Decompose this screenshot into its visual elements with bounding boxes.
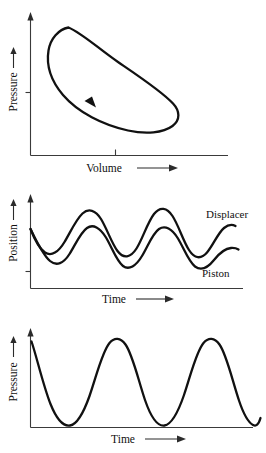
pv-ylabel-group: Pressure xyxy=(7,73,19,112)
pv-xlabel: Volume xyxy=(86,162,122,174)
pos-ylabel-arrow-group xyxy=(10,199,16,220)
stirling-cycle-figure: Pressure Volume Displacer Piston Positio… xyxy=(0,0,266,453)
pt-ylabel-group: Pressure xyxy=(7,363,19,402)
pressure-curve xyxy=(32,339,261,426)
pos-xlabel: Time xyxy=(102,293,126,305)
pv-y-axis-arrowhead xyxy=(27,12,33,21)
series-label-piston: Piston xyxy=(202,267,230,279)
pt-ylabel: Pressure xyxy=(7,363,19,402)
panel-pv-diagram: Pressure Volume xyxy=(7,12,228,174)
displacer-curve xyxy=(31,209,236,257)
pv-direction-arrowhead xyxy=(85,97,97,108)
pt-y-axis-arrowhead xyxy=(27,328,33,337)
pos-ylabel-arrowhead xyxy=(10,199,16,206)
series-label-displacer: Displacer xyxy=(206,208,248,220)
pos-ylabel: Position xyxy=(7,224,19,262)
pt-ylabel-arrow-group xyxy=(10,336,16,357)
pt-ylabel-arrowhead xyxy=(10,336,16,343)
pv-ylabel-arrow-group xyxy=(10,47,16,68)
pv-loop-curve xyxy=(48,28,178,133)
pt-xlabel: Time xyxy=(111,433,135,445)
pv-ylabel: Pressure xyxy=(7,73,19,112)
panel-position-vs-time: Displacer Piston Position Time xyxy=(7,194,248,305)
pos-y-axis-arrowhead xyxy=(27,194,33,203)
pv-xlabel-arrowhead xyxy=(169,164,178,171)
pos-xlabel-arrowhead xyxy=(165,295,174,302)
pv-ylabel-arrowhead xyxy=(10,47,16,54)
panel-pressure-vs-time: Pressure Time xyxy=(7,328,261,445)
pt-xlabel-arrowhead xyxy=(177,435,186,442)
pos-ylabel-group: Position xyxy=(7,224,19,262)
